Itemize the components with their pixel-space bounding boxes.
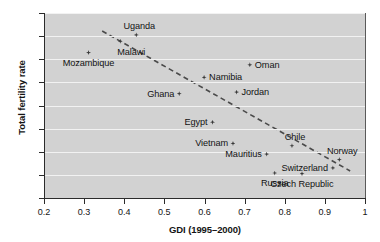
- x-tick-label: 0.3: [64, 207, 104, 217]
- gridline: [44, 106, 365, 107]
- data-point-label: Namibia: [209, 72, 242, 82]
- y-tick: [39, 13, 44, 14]
- y-axis-line: [44, 13, 45, 199]
- data-point-label: Egypt: [185, 117, 208, 127]
- gridline: [44, 36, 365, 37]
- data-point-marker: [234, 90, 239, 95]
- data-point-marker: [337, 157, 342, 162]
- x-tick: [84, 199, 85, 204]
- x-tick: [164, 199, 165, 204]
- y-tick: [39, 129, 44, 130]
- x-tick-label: 0.4: [104, 207, 144, 217]
- data-point-label: Chile: [285, 132, 305, 142]
- gridline: [44, 13, 365, 14]
- y-tick: [39, 106, 44, 107]
- x-tick-label: 0.6: [185, 207, 225, 217]
- x-tick: [285, 199, 286, 204]
- gridline: [44, 152, 365, 153]
- data-point-label: Czech Republic: [271, 179, 334, 189]
- data-point-marker: [177, 91, 182, 96]
- data-point-label: Mozambique: [63, 58, 115, 68]
- data-point-marker: [202, 75, 207, 80]
- data-point-label: Norway: [327, 146, 358, 156]
- data-point-label: Switzerland: [282, 163, 328, 173]
- gridline: [44, 129, 365, 130]
- data-point-marker: [86, 50, 91, 55]
- y-tick: [39, 82, 44, 83]
- data-point-marker: [230, 141, 235, 146]
- x-tick-label: 0.2: [24, 207, 64, 217]
- x-tick: [245, 199, 246, 204]
- x-tick: [44, 199, 45, 204]
- gridline: [44, 82, 365, 83]
- x-tick-label: 0.9: [305, 207, 345, 217]
- data-point-marker: [289, 143, 294, 148]
- plot-area: MozambiqueMalawiUgandaGhanaNamibiaEgyptV…: [44, 13, 366, 198]
- x-tick-label: 0.5: [144, 207, 184, 217]
- data-point-marker: [118, 39, 123, 44]
- x-tick: [124, 199, 125, 204]
- x-tick: [205, 199, 206, 204]
- x-tick: [365, 199, 366, 204]
- data-point-label: Jordan: [242, 87, 270, 97]
- y-axis-title: Total fertility rate: [16, 33, 27, 163]
- data-point-label: Uganda: [123, 21, 155, 31]
- data-point-marker: [210, 120, 215, 125]
- data-point-marker: [330, 165, 335, 170]
- y-tick: [39, 152, 44, 153]
- y-tick: [39, 59, 44, 60]
- x-tick: [325, 199, 326, 204]
- x-tick-label: 0.7: [225, 207, 265, 217]
- x-tick-label: 1: [345, 207, 380, 217]
- gridline: [44, 175, 365, 176]
- data-point-label: Mauritius: [225, 149, 261, 159]
- data-point-marker: [247, 62, 252, 67]
- scatter-chart: Total fertility rate MozambiqueMalawiUga…: [0, 0, 380, 242]
- x-axis-title: GDI (1995–2000): [44, 224, 366, 235]
- data-point-label: Vietnam: [195, 138, 228, 148]
- x-tick-label: 0.8: [265, 207, 305, 217]
- data-point-label: Malawi: [117, 47, 145, 57]
- data-point-label: Ghana: [147, 89, 174, 99]
- data-point-label: Oman: [255, 60, 280, 70]
- y-tick: [39, 175, 44, 176]
- y-tick: [39, 36, 44, 37]
